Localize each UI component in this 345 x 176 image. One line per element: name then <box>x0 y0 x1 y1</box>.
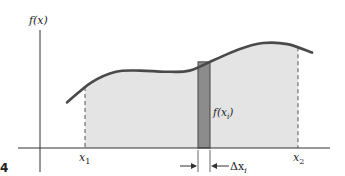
riemann-strip-diagram: f(x) x1 x2 f(xi) Δxi 4 <box>0 0 345 176</box>
highlighted-strip <box>198 62 210 148</box>
x2-label: x2 <box>293 151 304 166</box>
arrow-right-icon <box>191 163 197 169</box>
figure-number: 4 <box>0 161 8 175</box>
shaded-area <box>85 43 298 148</box>
strip-width-label: Δxi <box>230 160 247 175</box>
arrow-left-icon <box>211 163 217 169</box>
x1-label: x1 <box>79 151 90 166</box>
y-axis-label: f(x) <box>28 14 48 27</box>
delta-x-indicator <box>180 150 229 172</box>
